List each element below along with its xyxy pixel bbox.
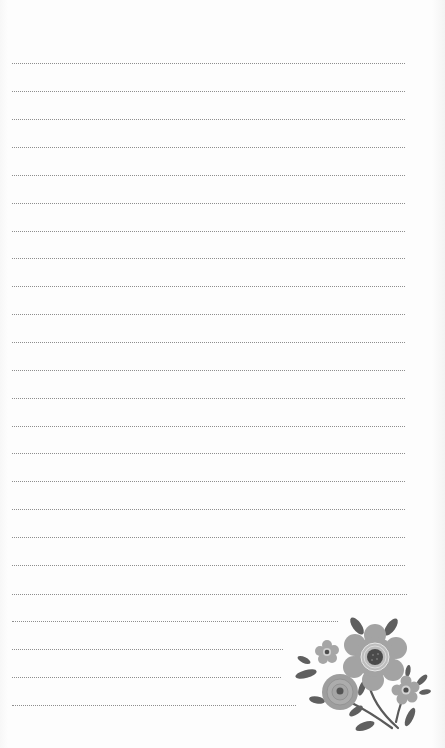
small-flower [315, 640, 339, 664]
notepad-page [0, 0, 445, 748]
floral-decoration-icon [0, 0, 445, 748]
rose-flower [322, 674, 358, 710]
